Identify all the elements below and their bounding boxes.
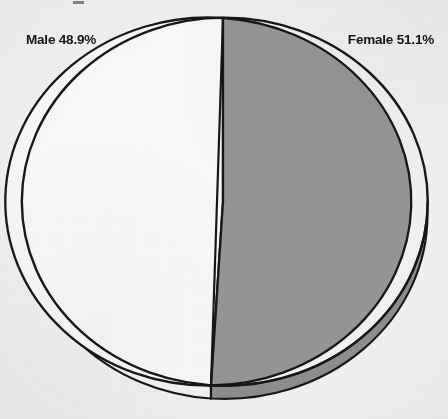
pie-chart-page: Male 48.9% Female 51.1% — [0, 0, 448, 419]
cropped-title-artifact — [73, 1, 84, 4]
male-slice — [5, 18, 223, 386]
pie-chart-graphic — [0, 0, 448, 419]
female-slice-label: Female 51.1% — [348, 33, 434, 47]
male-slice-label: Male 48.9% — [26, 33, 96, 47]
